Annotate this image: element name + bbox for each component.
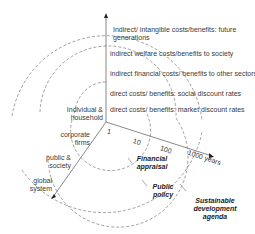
- actor-corporate-1: corporate: [52, 131, 90, 139]
- label-social-discount: direct costs/ benefits: social discount …: [110, 90, 241, 98]
- actor-global-1: global: [22, 177, 52, 185]
- label-future-generations-2: generations: [113, 34, 150, 42]
- domain-financial-1: Financial: [132, 155, 172, 163]
- concentric-diagram: Indirect/ intangible costs/benefits: fut…: [0, 0, 255, 234]
- actor-global-2: system: [22, 185, 52, 193]
- domain-sustainable-1: Sustainable: [190, 197, 240, 205]
- label-future-generations-1: Indirect/ intangible costs/benefits: fut…: [113, 26, 236, 34]
- actor-public-2: society: [35, 162, 71, 170]
- domain-financial-2: appraisal: [132, 163, 172, 171]
- actor-corporate-2: firms: [52, 139, 90, 147]
- domain-public-1: Public: [148, 183, 178, 191]
- actor-public-1: public &: [35, 154, 71, 162]
- domain-sustainable-3: agenda: [190, 213, 240, 221]
- label-other-sectors: indirect financial costs/ benefits to ot…: [110, 70, 255, 78]
- time-1: 1: [107, 128, 111, 136]
- label-market-discount: direct costs/ benefits: market discount …: [110, 106, 245, 114]
- actor-individual-1: Individual &: [60, 106, 103, 114]
- actor-individual-2: household: [60, 114, 103, 122]
- domain-public-2: policy: [148, 191, 178, 199]
- label-welfare-society: indirect welfare costs/benefits to socie…: [110, 50, 233, 58]
- domain-sustainable-2: development: [190, 205, 240, 213]
